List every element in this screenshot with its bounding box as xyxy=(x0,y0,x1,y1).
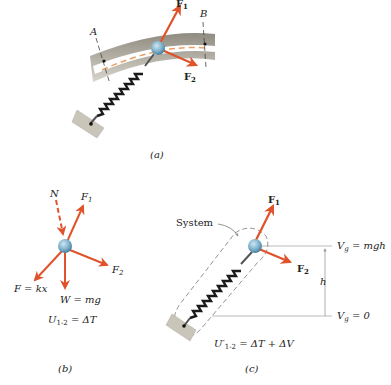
particle-c xyxy=(248,239,262,253)
label-a: A xyxy=(89,26,97,37)
force-n-b xyxy=(56,200,63,234)
panel-c: h Vg = mgh Vg = 0 System F1 F2 U′1-2 = Δ… xyxy=(166,194,386,374)
label-h: h xyxy=(320,276,326,287)
force-spring-b xyxy=(35,251,62,280)
equation-c: U′1-2 = ΔT + ΔV xyxy=(214,338,296,351)
caption-a: (a) xyxy=(150,149,164,160)
label-f1-c: F1 xyxy=(268,194,280,207)
particle-a xyxy=(151,41,165,55)
particle-b xyxy=(58,239,72,253)
force-f1-c xyxy=(255,206,273,242)
panel-a: A B F1 F2 (a) xyxy=(72,0,215,160)
equation-b: U1-2 = ΔT xyxy=(48,314,98,327)
label-b: B xyxy=(199,8,207,19)
label-f2-b: F2 xyxy=(111,264,124,277)
label-vg-bottom: Vg = 0 xyxy=(337,310,370,323)
force-f1-b xyxy=(66,206,83,244)
label-f2-a: F2 xyxy=(184,71,196,84)
panel-b: N F1 F2 F = kx W = mg U1-2 = ΔT (b) xyxy=(13,188,124,374)
label-n-b: N xyxy=(49,188,60,199)
label-vg-top: Vg = mgh xyxy=(337,240,386,253)
label-weight-b: W = mg xyxy=(60,294,101,305)
spring-c xyxy=(190,271,241,318)
label-f1-b: F1 xyxy=(80,191,92,204)
spring-a xyxy=(97,74,143,116)
caption-c: (c) xyxy=(245,363,259,374)
caption-b: (b) xyxy=(58,363,72,374)
system-pointer xyxy=(218,224,238,236)
label-system: System xyxy=(176,217,214,228)
force-f2-b xyxy=(70,250,107,265)
label-f2-c: F2 xyxy=(297,263,309,276)
force-f2-c xyxy=(259,249,290,262)
mechanics-figure: A B F1 F2 (a) N F1 F2 F = kx W = mg U1-2… xyxy=(0,0,391,385)
label-spring-force-b: F = kx xyxy=(13,283,48,294)
